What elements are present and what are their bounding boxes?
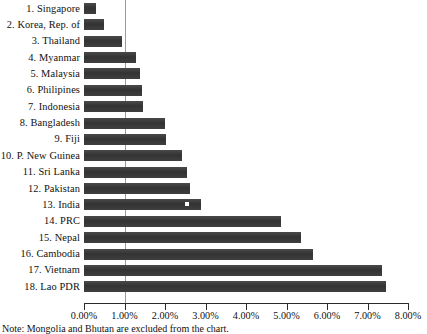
category-label: 5. Malaysia bbox=[0, 68, 80, 79]
category-label: 12. Pakistan bbox=[0, 183, 80, 194]
x-axis-tick bbox=[327, 303, 328, 310]
bar bbox=[84, 52, 136, 63]
category-label: 18. Lao PDR bbox=[0, 281, 80, 292]
bar bbox=[84, 199, 201, 210]
x-axis-tick bbox=[368, 303, 369, 310]
bar bbox=[84, 134, 166, 145]
x-axis-tick bbox=[246, 303, 247, 310]
category-label: 16. Cambodia bbox=[0, 248, 80, 259]
x-axis-tick-label: 8.00% bbox=[378, 310, 427, 321]
category-label: 9. Fiji bbox=[0, 133, 80, 144]
bar bbox=[84, 36, 122, 47]
x-axis-tick bbox=[125, 303, 126, 310]
category-label: 15. Nepal bbox=[0, 232, 80, 243]
category-label: 1. Singapore bbox=[0, 3, 80, 14]
category-label: 4. Myanmar bbox=[0, 52, 80, 63]
x-axis-tick bbox=[165, 303, 166, 310]
category-label: 17. Vietnam bbox=[0, 264, 80, 275]
category-label: 14. PRC bbox=[0, 215, 80, 226]
x-axis-tick bbox=[408, 303, 409, 310]
chart-footnote: Note: Mongolia and Bhutan are excluded f… bbox=[2, 323, 427, 334]
bar bbox=[84, 118, 165, 129]
bar bbox=[84, 68, 140, 79]
bar bbox=[84, 183, 190, 194]
category-label: 10. P. New Guinea bbox=[0, 150, 80, 161]
category-axis-labels: 1. Singapore2. Korea, Rep. of3. Thailand… bbox=[0, 0, 80, 303]
category-label: 11. Sri Lanka bbox=[0, 166, 80, 177]
bar bbox=[84, 167, 187, 178]
category-label: 6. Philipines bbox=[0, 84, 80, 95]
bar bbox=[84, 101, 143, 112]
bar bbox=[84, 232, 301, 243]
marker-dot-icon bbox=[185, 202, 189, 206]
x-axis-tick bbox=[206, 303, 207, 310]
bar bbox=[84, 216, 281, 227]
bar bbox=[84, 150, 182, 161]
bar bbox=[84, 249, 313, 260]
category-label: 3. Thailand bbox=[0, 35, 80, 46]
category-label: 13. India bbox=[0, 199, 80, 210]
category-label: 2. Korea, Rep. of bbox=[0, 19, 80, 30]
bar bbox=[84, 281, 386, 292]
x-axis-tick bbox=[287, 303, 288, 310]
bar bbox=[84, 85, 142, 96]
bar bbox=[84, 19, 104, 30]
category-label: 8. Bangladesh bbox=[0, 117, 80, 128]
x-axis-tick bbox=[84, 303, 85, 310]
bar bbox=[84, 265, 382, 276]
bar bbox=[84, 3, 96, 14]
category-label: 7. Indonesia bbox=[0, 101, 80, 112]
plot-area bbox=[84, 0, 427, 303]
